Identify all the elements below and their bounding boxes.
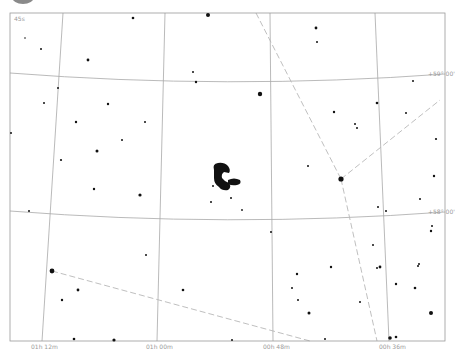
grid-lines [10, 13, 445, 341]
ra-label: 00h 36m [379, 343, 406, 350]
ra-label: 01h 00m [146, 343, 173, 350]
fov-label: 45s [14, 15, 25, 22]
dec-label: +59° 00' [428, 70, 455, 77]
stars [10, 13, 437, 342]
ra-label: 00h 48m [263, 343, 290, 350]
dec-label: +58° 00' [428, 208, 455, 215]
nebula-object[interactable] [214, 163, 241, 190]
ra-label: 01h 12m [31, 343, 58, 350]
sky-chart[interactable]: 45s +59° 00' +58° 00' 01h 12m 01h 00m 00… [0, 0, 457, 357]
chart-frame [10, 13, 445, 341]
